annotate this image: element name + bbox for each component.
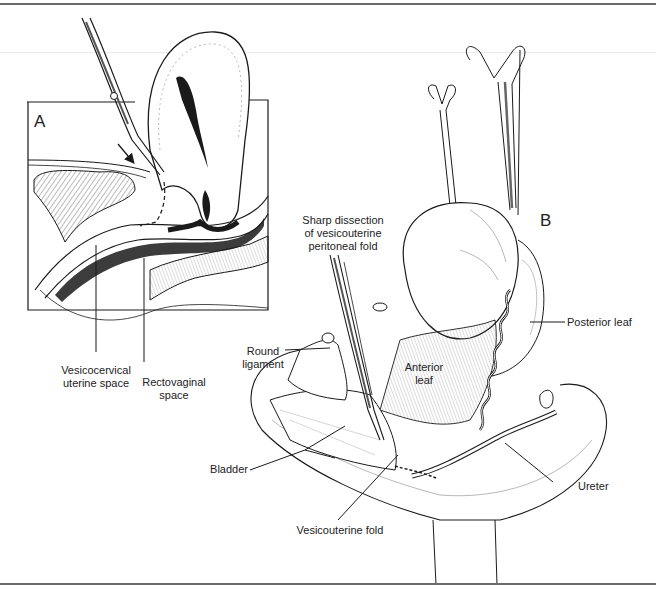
panel-a (27, 18, 268, 362)
bottom-rule (0, 583, 656, 585)
label-line: Rectovaginal (136, 376, 212, 389)
label-line: leaf (399, 374, 449, 387)
label-ureter: Ureter (578, 480, 609, 493)
label-round-ligament: Round ligament (238, 345, 288, 371)
panel-b (250, 46, 607, 585)
label-rectovaginal-space: Rectovaginal space (136, 376, 212, 402)
panel-b-letter: B (540, 211, 551, 231)
label-line: of vesicouterine (300, 227, 386, 240)
label-vesicouterine-fold: Vesicouterine fold (270, 524, 410, 537)
surgical-illustration (0, 0, 656, 589)
label-bladder: Bladder (196, 463, 248, 476)
label-line: Anterior (399, 361, 449, 374)
label-line: Round (238, 345, 288, 358)
label-sharp-dissection: Sharp dissection of vesicouterine perito… (300, 214, 386, 253)
panel-a-letter: A (34, 112, 45, 132)
label-line: peritoneal fold (300, 240, 386, 253)
label-line: ligament (238, 358, 288, 371)
label-posterior-leaf: Posterior leaf (567, 316, 632, 329)
label-line: space (136, 389, 212, 402)
label-line: Sharp dissection (300, 214, 386, 227)
label-anterior-leaf: Anterior leaf (399, 361, 449, 387)
